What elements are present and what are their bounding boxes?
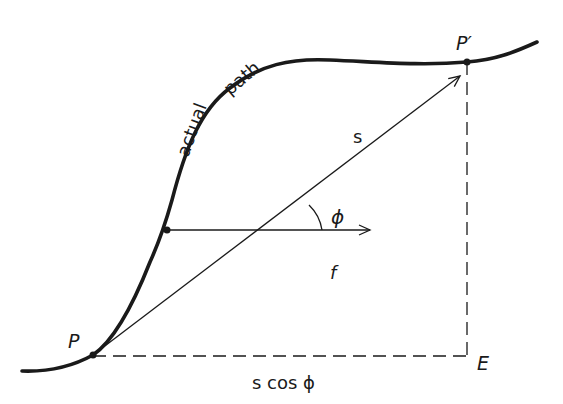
point-force-origin — [164, 227, 171, 234]
actual-path-curve — [22, 42, 537, 371]
label-f: f — [330, 262, 339, 283]
label-p: P — [68, 330, 80, 352]
label-s: s — [353, 126, 362, 147]
point-p-prime — [464, 59, 471, 66]
label-actual: actual — [172, 100, 211, 159]
label-phi: ϕ — [331, 205, 344, 229]
label-e: E — [477, 352, 489, 374]
displacement-vector — [93, 76, 460, 355]
label-p-prime: P′ — [456, 32, 472, 54]
point-p — [90, 352, 97, 359]
label-s-cos-phi: s cos ϕ — [252, 372, 315, 393]
angle-arc — [309, 205, 322, 230]
work-diagram: P P′ E actual path s f ϕ s cos ϕ — [0, 0, 563, 404]
